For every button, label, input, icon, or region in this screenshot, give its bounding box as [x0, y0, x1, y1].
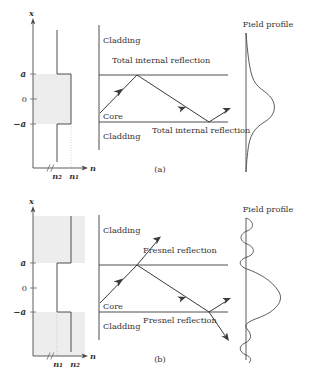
panel-a-ray-diagram: Cladding Core Cladding Total internal re… [99, 25, 251, 150]
panel-a-n-axis-label: n [90, 163, 96, 173]
panel-b-tick-label-a: a [20, 258, 26, 268]
panel-b-index-label-cladding: n₂ [70, 359, 80, 369]
panel-b-ray-diagram: Cladding Core Cladding Fresnel reflectio… [99, 215, 231, 341]
panel-a-index-profile: x n a 0 −a n₂ n₁ [13, 8, 96, 181]
figure-container: x n a 0 −a n₂ n₁ Cladding Core [0, 0, 309, 378]
panel-a-label-cladding-top: Cladding [103, 35, 140, 45]
panel-a-tick-label-a: a [20, 69, 26, 79]
panel-b: x n a 0 −a n₁ n₂ [13, 196, 293, 369]
panel-b-annotation-fresnel-top: Fresnel reflection [143, 245, 217, 255]
panel-b-label-cladding-top: Cladding [103, 225, 140, 235]
panel-b-ray-arrowhead-core [177, 296, 186, 302]
panel-a-annotation-tir-bottom: Total internal reflection [152, 125, 251, 135]
panel-b-tick-label-minus-a: −a [13, 307, 26, 317]
panel-b-shaded-cladding-bottom [33, 312, 85, 356]
panel-b-caption: (b) [154, 354, 166, 364]
panel-b-reflected-ray-core [137, 265, 209, 312]
panel-b-n-axis-label: n [90, 351, 96, 361]
panel-b-shaded-cladding-top [33, 216, 85, 263]
panel-b-index-label-core: n₁ [53, 359, 63, 369]
panel-a-field-profile-title: Field profile [243, 19, 294, 29]
panel-b-field-profile: Field profile [240, 204, 293, 363]
panel-a-index-label-core: n₁ [69, 171, 79, 181]
panel-b-index-profile: x n a 0 −a n₁ n₂ [13, 196, 96, 369]
panel-a-label-core: Core [103, 111, 123, 121]
panel-b-refracted-arrowhead-bottom [221, 333, 229, 341]
panel-b-tick-label-zero: 0 [22, 283, 27, 293]
panel-a-label-cladding-bottom: Cladding [103, 131, 140, 141]
panel-a-shaded-core-region [33, 74, 71, 124]
panel-a-field-curve [246, 33, 274, 172]
waveguide-figure: x n a 0 −a n₂ n₁ Cladding Core [0, 0, 309, 378]
panel-b-field-profile-title: Field profile [243, 204, 294, 214]
panel-a: x n a 0 −a n₂ n₁ Cladding Core [13, 8, 293, 181]
panel-b-refracted-arrowhead-top [153, 237, 161, 245]
panel-b-label-core: Core [103, 301, 123, 311]
panel-a-index-label-cladding: n₂ [52, 171, 62, 181]
panel-a-field-profile: Field profile [243, 19, 294, 172]
panel-a-ray-arrowhead-up [113, 89, 123, 97]
panel-b-label-cladding-bottom: Cladding [103, 321, 140, 331]
panel-a-annotation-tir-top: Total internal reflection [112, 55, 211, 65]
panel-b-ray-arrowhead-in [113, 279, 123, 287]
panel-a-ray-arrowhead-down [177, 106, 186, 112]
panel-a-caption: (a) [154, 164, 165, 174]
panel-a-tick-label-zero: 0 [22, 94, 27, 104]
panel-b-annotation-fresnel-bottom: Fresnel reflection [143, 315, 217, 325]
panel-a-x-axis-label: x [28, 8, 34, 18]
panel-b-x-axis-label: x [28, 196, 34, 206]
panel-a-tick-label-minus-a: −a [13, 119, 26, 129]
